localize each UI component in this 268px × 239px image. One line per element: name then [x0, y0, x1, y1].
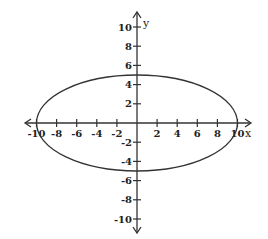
y-axis-label: y	[142, 17, 150, 30]
y-tick-label: -10	[114, 214, 132, 225]
x-axis-label: x	[245, 127, 252, 140]
x-tick-label: 4	[174, 128, 181, 139]
y-tick-label: 10	[118, 22, 132, 33]
y-tick-label: -8	[121, 194, 132, 205]
y-tick-label: 2	[125, 98, 132, 109]
x-tick-label: -6	[71, 128, 82, 139]
x-tick-labels: -10-8-6-4-2246810	[27, 128, 244, 139]
y-tick-label: -4	[121, 156, 132, 167]
y-tick-label: 8	[125, 41, 132, 52]
y-tick-label: -6	[121, 175, 132, 186]
y-tick-label: 6	[125, 60, 132, 71]
y-tick-label: 4	[125, 79, 132, 90]
x-tick-label: 6	[194, 128, 201, 139]
x-tick-label: 8	[214, 128, 221, 139]
x-tick-label: -10	[27, 128, 45, 139]
y-tick-label: -2	[121, 137, 132, 148]
x-tick-label: 2	[154, 128, 161, 139]
x-tick-label: -8	[51, 128, 62, 139]
coordinate-plane: -10-8-6-4-2246810 108642-2-4-6-8-10 x y	[0, 0, 268, 239]
x-tick-label: -4	[91, 128, 102, 139]
